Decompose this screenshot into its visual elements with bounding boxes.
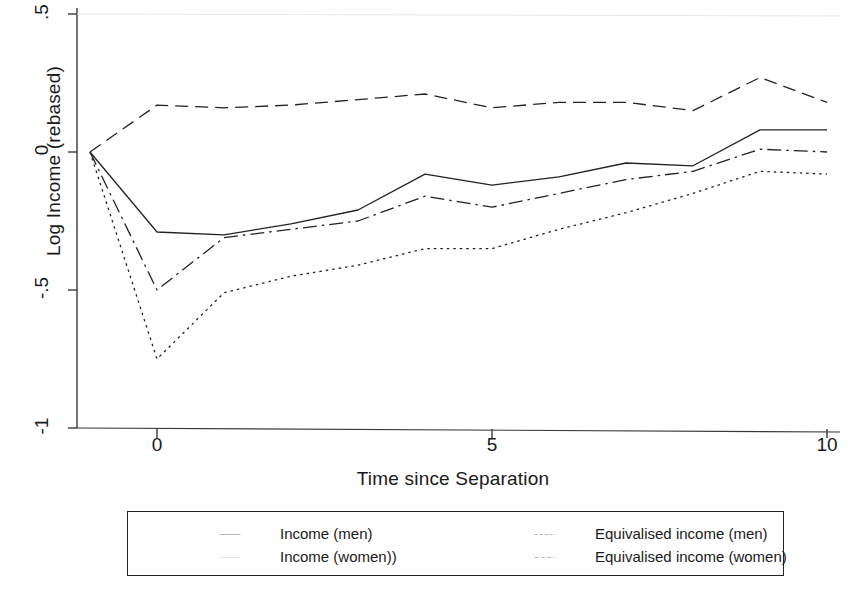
plot-top-rule xyxy=(77,14,840,16)
legend-label: Equivalised income (women) xyxy=(595,548,787,565)
chart-figure: Log Income (rebased) Time since Separati… xyxy=(0,0,853,592)
plot-area xyxy=(0,0,853,592)
series-line-3 xyxy=(90,78,827,153)
legend-label: Income (women)) xyxy=(280,548,397,565)
series-line-4 xyxy=(90,149,827,290)
legend-swatch-dotted xyxy=(188,557,272,558)
x-axis-line xyxy=(77,428,840,432)
legend-swatch-dashdot xyxy=(503,557,587,558)
legend-swatch-dashed xyxy=(503,534,587,535)
chart-legend: Income (men)Equivalised income (men)Inco… xyxy=(127,511,784,576)
legend-label: Income (men) xyxy=(280,525,373,542)
legend-label: Equivalised income (men) xyxy=(595,525,768,542)
series-line-1 xyxy=(90,130,827,235)
legend-swatch-solid xyxy=(188,534,272,535)
series-line-2 xyxy=(90,152,827,359)
